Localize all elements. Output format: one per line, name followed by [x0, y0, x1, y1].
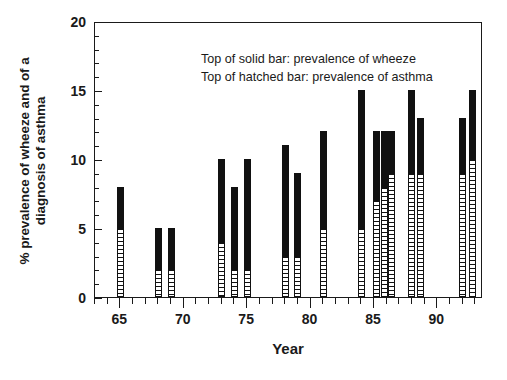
x-axis-minor-tick-79 [297, 298, 298, 304]
x-axis-tick-label-65: 65 [112, 311, 128, 327]
y-axis-tick-label-5: 5 [78, 221, 86, 237]
x-axis-major-tick-75 [246, 298, 247, 308]
bar-hatched-segment [155, 269, 162, 297]
x-axis-major-tick-80 [310, 298, 311, 308]
x-axis-minor-tick-81 [322, 298, 323, 304]
x-axis-minor-tick-74 [233, 298, 234, 304]
x-axis-minor-tick-88 [411, 298, 412, 304]
y-axis-minor-tick-14 [94, 105, 99, 106]
bar-hatched-segment [373, 200, 380, 297]
x-axis-major-tick-85 [373, 298, 374, 308]
bar-year-78 [282, 145, 289, 297]
x-axis-title: Year [94, 340, 482, 357]
x-axis-minor-tick-89 [424, 298, 425, 304]
x-axis-minor-tick-78 [284, 298, 285, 304]
x-axis-minor-tick-93 [474, 298, 475, 304]
bar-hatched-segment [117, 228, 124, 297]
x-axis-major-tick-90 [436, 298, 437, 308]
x-axis-minor-tick-77 [272, 298, 273, 304]
legend-line-wheeze: Top of solid bar: prevalence of wheeze [201, 51, 433, 69]
x-axis-minor-tick-91 [449, 298, 450, 304]
plot-area: Top of solid bar: prevalence of wheeze T… [94, 22, 482, 298]
y-axis-tick-label-10: 10 [70, 152, 86, 168]
bar-hatched-segment [388, 173, 395, 297]
y-axis-minor-tick-12 [94, 132, 99, 133]
chart-legend: Top of solid bar: prevalence of wheeze T… [201, 51, 433, 87]
bar-hatched-segment [459, 173, 466, 297]
y-axis-minor-tick-17 [94, 63, 99, 64]
x-axis-tick-label-75: 75 [238, 311, 254, 327]
bar-year-84 [358, 90, 365, 297]
bar-year-65 [117, 187, 124, 297]
y-axis-minor-tick-18 [94, 50, 99, 51]
y-axis-major-tick-15 [94, 91, 102, 92]
y-axis-minor-tick-9 [94, 174, 99, 175]
x-axis-minor-tick-72 [208, 298, 209, 304]
y-axis-major-tick-0 [94, 298, 102, 299]
bar-year-81 [320, 131, 327, 297]
x-axis-tick-label-70: 70 [175, 311, 191, 327]
y-axis-minor-tick-6 [94, 215, 99, 216]
x-axis-tick-label-80: 80 [302, 311, 318, 327]
bar-year-88 [408, 90, 415, 297]
x-axis-minor-tick-73 [221, 298, 222, 304]
bar-hatched-segment [231, 269, 238, 297]
x-axis-major-tick-70 [183, 298, 184, 308]
x-axis-minor-tick-67 [145, 298, 146, 304]
y-axis-major-tick-20 [94, 22, 102, 23]
bar-hatched-segment [282, 256, 289, 297]
bar-year-75 [244, 159, 251, 297]
bar-year-86.4 [388, 131, 395, 297]
chart-figure: % prevalence of wheeze and of a diagnosi… [0, 0, 507, 380]
y-axis-tick-label-15: 15 [70, 83, 86, 99]
bar-year-92.8 [469, 90, 476, 297]
x-axis-minor-tick-66 [132, 298, 133, 304]
y-axis-minor-tick-11 [94, 146, 99, 147]
y-axis-tick-label-0: 0 [78, 290, 86, 306]
bar-year-88.7 [417, 118, 424, 297]
bar-hatched-segment [408, 173, 415, 297]
x-axis-minor-tick-82 [335, 298, 336, 304]
bar-hatched-segment [381, 187, 388, 297]
bar-hatched-segment [358, 228, 365, 297]
bar-year-74 [231, 187, 238, 297]
bar-year-85.8 [381, 131, 388, 297]
x-axis-minor-tick-86 [386, 298, 387, 304]
bar-year-79 [294, 173, 301, 297]
x-axis-minor-tick-84 [360, 298, 361, 304]
y-axis-minor-tick-16 [94, 77, 99, 78]
bar-hatched-segment [294, 256, 301, 297]
bar-year-92 [459, 118, 466, 297]
x-axis-minor-tick-63 [94, 298, 95, 304]
x-axis-minor-tick-64 [107, 298, 108, 304]
x-axis-major-tick-65 [119, 298, 120, 308]
y-axis-minor-tick-13 [94, 119, 99, 120]
x-axis-minor-tick-83 [348, 298, 349, 304]
x-axis-tick-label-85: 85 [365, 311, 381, 327]
y-axis-title: % prevalence of wheeze and of a diagnosi… [17, 11, 49, 311]
x-axis-minor-tick-76 [259, 298, 260, 304]
bar-hatched-segment [218, 242, 225, 297]
legend-line-asthma: Top of hatched bar: prevalence of asthma [201, 69, 433, 87]
x-axis-minor-tick-71 [195, 298, 196, 304]
y-axis-minor-tick-2 [94, 270, 99, 271]
x-axis-minor-tick-92 [462, 298, 463, 304]
bar-hatched-segment [320, 228, 327, 297]
y-axis-tick-label-20: 20 [70, 14, 86, 30]
x-axis-tick-label-90: 90 [429, 311, 445, 327]
x-axis-minor-tick-68 [157, 298, 158, 304]
bar-year-85.2 [373, 131, 380, 297]
x-axis-minor-tick-69 [170, 298, 171, 304]
y-axis-minor-tick-7 [94, 201, 99, 202]
y-axis-minor-tick-19 [94, 36, 99, 37]
bar-hatched-segment [417, 173, 424, 297]
y-axis-minor-tick-8 [94, 188, 99, 189]
y-axis-minor-tick-3 [94, 257, 99, 258]
bar-year-69 [168, 228, 175, 297]
y-axis-minor-tick-4 [94, 243, 99, 244]
x-axis-minor-tick-87 [398, 298, 399, 304]
y-axis-minor-tick-1 [94, 284, 99, 285]
bar-year-68 [155, 228, 162, 297]
bar-hatched-segment [244, 269, 251, 297]
y-axis-major-tick-10 [94, 160, 102, 161]
